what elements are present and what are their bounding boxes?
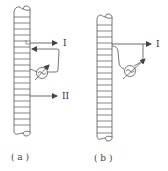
figure-b: I ( b ) xyxy=(94,14,160,163)
solenoid-a xyxy=(14,6,30,136)
label-II-a: II xyxy=(62,91,70,101)
diagram-canvas: I II ( a ) xyxy=(0,0,168,171)
ac-source-a xyxy=(35,65,49,80)
label-I-b: I xyxy=(156,39,160,49)
caption-a: ( a ) xyxy=(11,152,29,162)
figure-a: I II ( a ) xyxy=(11,6,70,162)
solenoid-b xyxy=(97,14,112,141)
label-I-a: I xyxy=(63,38,67,48)
caption-b: ( b ) xyxy=(94,153,113,163)
ac-source-b xyxy=(123,59,145,79)
